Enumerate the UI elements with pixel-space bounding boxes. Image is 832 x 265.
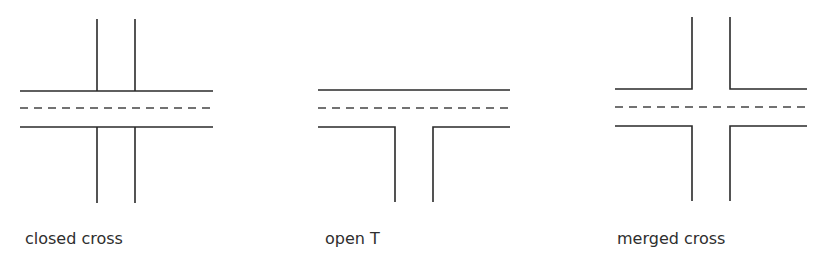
road-edge-line [615, 126, 692, 201]
road-edge-line [433, 127, 510, 202]
merged-cross-label: merged cross [617, 231, 725, 247]
road-edge-line [730, 126, 807, 201]
junction-diagrams [0, 0, 832, 265]
open-t-label: open T [325, 231, 380, 247]
open-t-diagram [318, 90, 510, 202]
merged-cross-diagram [615, 17, 807, 201]
closed-cross-diagram [20, 19, 213, 203]
road-edge-line [318, 127, 395, 202]
road-edge-line [615, 17, 692, 89]
road-edge-line [730, 17, 807, 89]
closed-cross-label: closed cross [25, 231, 123, 247]
